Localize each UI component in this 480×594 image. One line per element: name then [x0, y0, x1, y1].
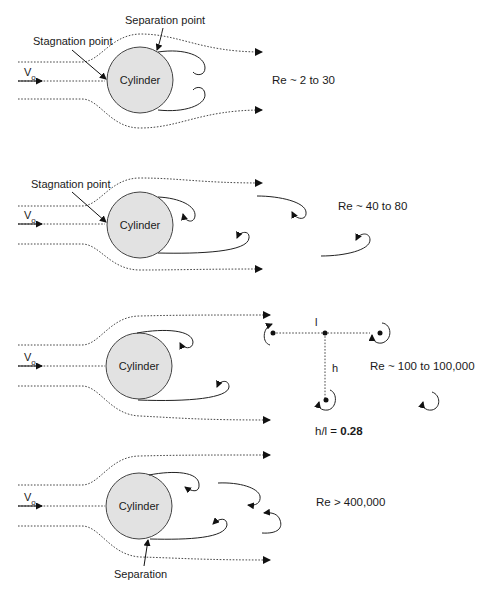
panel-4: Cylinder Vo Separation Re > 400,000	[18, 455, 385, 580]
velocity-label: Vo	[24, 351, 36, 367]
panel-1: Cylinder Separation point Stagnation poi…	[18, 14, 335, 128]
reynolds-label: Re > 400,000	[316, 496, 385, 508]
cylinder-label: Cylinder	[120, 219, 161, 231]
vortex-cw-3	[423, 392, 439, 410]
separation-pointer	[157, 28, 163, 50]
cylinder-label: Cylinder	[119, 500, 160, 512]
vortex-ccw-1	[264, 324, 272, 345]
vortex-core	[378, 331, 383, 336]
reynolds-label: Re ~ 40 to 80	[338, 200, 407, 212]
velocity-label: Vo	[24, 66, 36, 82]
separation-point-label: Separation point	[125, 14, 205, 26]
velocity-label: Vo	[24, 209, 36, 225]
cylinder-label: Cylinder	[120, 74, 161, 86]
reynolds-label: Re ~ 100 to 100,000	[370, 360, 475, 372]
reynolds-label: Re ~ 2 to 30	[272, 74, 335, 86]
flow-regimes-diagram: Cylinder Separation point Stagnation poi…	[0, 0, 480, 594]
stagnation-point-label: Stagnation point	[31, 178, 111, 190]
spacing-label-h: h	[332, 362, 338, 374]
stagnation-point-label: Stagnation point	[33, 35, 113, 47]
panel-3: Cylinder l h Vo Re ~ 100 to 100,000 h/l …	[18, 315, 475, 437]
ratio-label: h/l = 0.28	[315, 425, 363, 437]
stagnation-pointer	[72, 192, 106, 222]
cylinder-label: Cylinder	[119, 360, 160, 372]
vortex-core	[271, 331, 276, 336]
separation-label: Separation	[114, 568, 167, 580]
vortex-core	[324, 398, 329, 403]
shed-vortex-lower	[321, 234, 370, 256]
vortex-center	[323, 331, 328, 336]
stagnation-pointer	[72, 50, 106, 79]
velocity-label: Vo	[24, 491, 36, 507]
panel-2: Cylinder Stagnation point Vo Re ~ 40 to …	[18, 178, 407, 270]
separation-pointer	[144, 540, 148, 566]
shed-vortex-a	[218, 483, 260, 505]
shed-vortex-b	[262, 513, 281, 533]
spacing-label-l: l	[315, 316, 317, 328]
shed-vortex-upper	[257, 196, 306, 218]
